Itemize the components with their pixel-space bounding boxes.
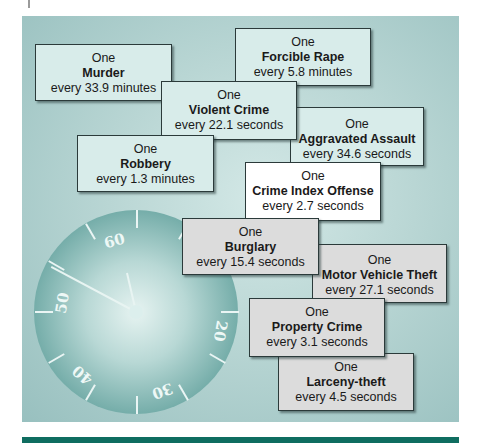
- clock-label-40: 40: [69, 361, 97, 388]
- clock-label-20: 20: [210, 319, 231, 343]
- box-frequency: every 22.1 seconds: [162, 118, 296, 133]
- box-prefix: One: [279, 360, 413, 375]
- box-crime-name: Forcible Rape: [236, 50, 370, 65]
- box-crime-name: Larceny-theft: [279, 375, 413, 390]
- clock-tick: [178, 384, 189, 401]
- box-prefix: One: [246, 169, 380, 184]
- box-crime-name: Murder: [36, 66, 171, 81]
- box-property-crime: One Property Crime every 3.1 seconds: [249, 298, 385, 357]
- box-frequency: every 1.3 minutes: [78, 172, 213, 187]
- crime-clock-panel: 60 50 40 30 20 One Murder every 33.9 min…: [22, 16, 459, 422]
- box-frequency: every 2.7 seconds: [246, 199, 380, 214]
- clock-tick: [35, 311, 53, 313]
- box-aggravated-assault: One Aggravated Assault every 34.6 second…: [290, 107, 424, 166]
- clock-label-50: 50: [52, 291, 73, 315]
- box-crime-name: Motor Vehicle Theft: [313, 268, 446, 283]
- box-frequency: every 4.5 seconds: [279, 390, 413, 405]
- clock-label-30: 30: [150, 379, 176, 403]
- box-motor-vehicle-theft: One Motor Vehicle Theft every 27.1 secon…: [312, 244, 447, 303]
- box-murder: One Murder every 33.9 minutes: [35, 44, 172, 101]
- box-frequency: every 33.9 minutes: [36, 81, 171, 96]
- clock-tick: [85, 384, 96, 401]
- box-prefix: One: [162, 88, 296, 103]
- box-crime-name: Aggravated Assault: [291, 132, 423, 147]
- box-frequency: every 34.6 seconds: [291, 147, 423, 162]
- clock-label-60: 60: [102, 230, 127, 253]
- box-crime-name: Robbery: [78, 157, 213, 172]
- clock-hub: [129, 305, 143, 319]
- box-larceny-theft: One Larceny-theft every 4.5 seconds: [278, 353, 414, 411]
- box-frequency: every 15.4 seconds: [183, 255, 318, 270]
- margin-rule: [28, 0, 30, 8]
- box-prefix: One: [78, 142, 213, 157]
- box-crime-name: Violent Crime: [162, 103, 296, 118]
- box-prefix: One: [313, 253, 446, 268]
- box-forcible-rape: One Forcible Rape every 5.8 minutes: [235, 28, 371, 86]
- box-frequency: every 5.8 minutes: [236, 65, 370, 80]
- box-robbery: One Robbery every 1.3 minutes: [77, 135, 214, 192]
- box-burglary: One Burglary every 15.4 seconds: [182, 218, 319, 275]
- box-prefix: One: [36, 51, 171, 66]
- box-prefix: One: [183, 225, 318, 240]
- box-prefix: One: [291, 117, 423, 132]
- clock-tick: [209, 353, 226, 364]
- box-crime-index-offense: One Crime Index Offense every 2.7 second…: [245, 162, 381, 221]
- box-prefix: One: [250, 305, 384, 320]
- clock-tick: [85, 223, 96, 240]
- clock-tick: [48, 353, 65, 364]
- footer-bar: [22, 437, 459, 443]
- box-crime-name: Burglary: [183, 240, 318, 255]
- box-crime-name: Crime Index Offense: [246, 184, 380, 199]
- box-crime-name: Property Crime: [250, 320, 384, 335]
- box-frequency: every 3.1 seconds: [250, 335, 384, 350]
- clock-tick: [136, 396, 138, 414]
- box-violent-crime: One Violent Crime every 22.1 seconds: [161, 81, 297, 140]
- box-prefix: One: [236, 35, 370, 50]
- box-frequency: every 27.1 seconds: [313, 283, 446, 298]
- clock-tick: [136, 210, 138, 228]
- clock-tick: [221, 311, 239, 313]
